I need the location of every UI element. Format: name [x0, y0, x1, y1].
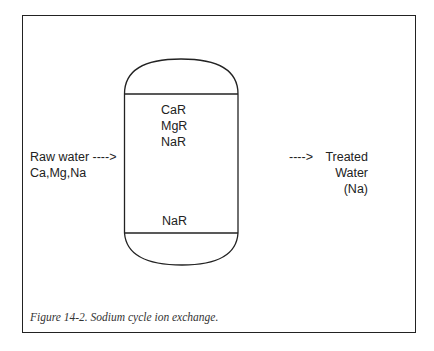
resin-label-nar-top: NaR — [161, 134, 186, 150]
inlet-ions: Ca,Mg,Na — [30, 165, 86, 181]
resin-label-car: CaR — [161, 102, 186, 118]
resin-label-mgr: MgR — [161, 118, 187, 134]
outlet-label-treated: Treated — [300, 149, 368, 165]
resin-label-nar-bottom: NaR — [162, 213, 187, 229]
figure-caption: Figure 14-2. Sodium cycle ion exchange. — [30, 311, 218, 323]
outlet-ions: (Na) — [300, 181, 368, 197]
inlet-label: Raw water ----> — [30, 149, 116, 165]
outlet-label-water: Water — [300, 165, 368, 181]
